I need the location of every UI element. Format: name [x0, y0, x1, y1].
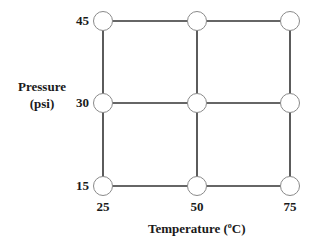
x-tick-75: 75	[275, 199, 305, 215]
y-axis-label: Pressure (psi)	[14, 78, 70, 112]
x-tick-50: 50	[182, 199, 212, 215]
node-25-30	[94, 94, 113, 113]
node-25-15	[94, 177, 113, 196]
x-tick-25: 25	[88, 199, 118, 215]
x-axis-label-suffix: C)	[232, 221, 246, 236]
node-75-30	[281, 94, 300, 113]
y-axis-label-line2: (psi)	[14, 95, 70, 112]
y-tick-45: 45	[59, 13, 89, 29]
node-75-45	[281, 12, 300, 31]
node-50-45	[188, 12, 207, 31]
factorial-grid	[0, 0, 318, 248]
x-axis-label-prefix: Temperature (	[148, 221, 228, 236]
node-50-15	[188, 177, 207, 196]
node-25-45	[94, 12, 113, 31]
x-axis-label: Temperature (oC)	[148, 221, 246, 237]
node-50-30	[188, 94, 207, 113]
y-axis-label-line1: Pressure	[14, 78, 70, 95]
y-tick-15: 15	[59, 178, 89, 194]
node-75-15	[281, 177, 300, 196]
